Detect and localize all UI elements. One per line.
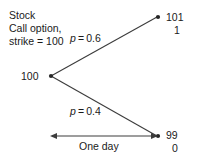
time-axis-label: One day bbox=[79, 140, 119, 153]
node-root-dot bbox=[49, 74, 53, 78]
branch-down-line bbox=[51, 76, 157, 136]
prob-up-value: 0.6 bbox=[86, 32, 101, 44]
prob-down-symbol: p bbox=[70, 105, 76, 117]
branch-up-line bbox=[51, 17, 157, 76]
time-axis-arrow bbox=[50, 133, 158, 139]
prob-down-equals: = bbox=[78, 105, 84, 117]
caption-line-strike: strike = 100 bbox=[9, 35, 64, 48]
prob-up-symbol: p bbox=[70, 32, 76, 44]
arrowhead-left-icon bbox=[50, 133, 57, 139]
caption-line-stock: Stock bbox=[9, 9, 64, 22]
branch-up-probability-label: p = 0.6 bbox=[70, 32, 101, 45]
caption-line-call-option: Call option, bbox=[9, 22, 64, 35]
figure-canvas: Stock Call option, strike = 100 100 p = … bbox=[0, 0, 201, 163]
branch-down-probability-label: p = 0.4 bbox=[70, 105, 101, 118]
prob-down-value: 0.4 bbox=[86, 105, 101, 117]
down-node-stock-value: 99 bbox=[166, 129, 178, 142]
prob-up-equals: = bbox=[78, 32, 84, 44]
down-node-option-payoff: 0 bbox=[166, 142, 184, 155]
up-node-stock-value: 101 bbox=[166, 11, 184, 24]
up-node-option-payoff: 1 bbox=[166, 24, 188, 37]
caption-block: Stock Call option, strike = 100 bbox=[9, 9, 64, 47]
node-up-dot bbox=[156, 15, 160, 19]
arrowhead-right-icon bbox=[151, 133, 158, 139]
root-node-value: 100 bbox=[21, 70, 39, 83]
